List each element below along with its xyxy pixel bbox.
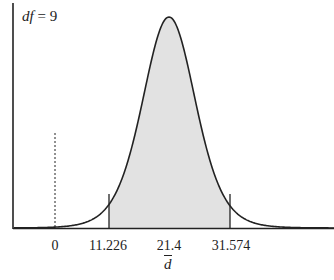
tick-label-0: 0	[52, 238, 59, 254]
shaded-region	[109, 17, 230, 228]
tick-label-upper: 31.574	[212, 238, 251, 254]
df-annotation: df = 9	[22, 8, 57, 25]
x-axis-title: d	[164, 256, 172, 273]
tick-label-center: 21.4	[157, 238, 182, 254]
tick-label-lower: 11.226	[89, 238, 127, 254]
